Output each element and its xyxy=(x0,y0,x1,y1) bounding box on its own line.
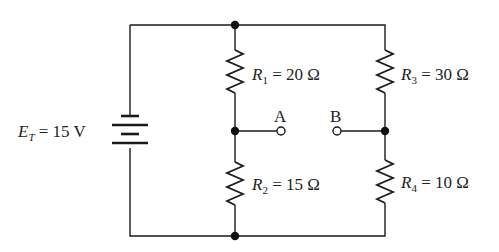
resistor-r2-icon xyxy=(227,162,243,205)
junction-bottom-node xyxy=(231,232,239,240)
terminal-b-label: B xyxy=(330,107,341,126)
bridge-circuit-diagram: A B ET = 15 V R1 = 20 Ω R2 = 15 Ω R3 = 3… xyxy=(0,0,499,252)
terminal-a xyxy=(277,127,285,135)
resistor-r4-icon xyxy=(377,160,393,203)
terminal-b xyxy=(333,127,341,135)
terminal-a-label: A xyxy=(274,107,287,126)
source-equals: = xyxy=(35,122,53,141)
resistor-r3-label: R3 = 30 Ω xyxy=(400,65,469,86)
resistor-r1-icon xyxy=(227,50,243,93)
resistor-r1-label: R1 = 20 Ω xyxy=(251,65,320,86)
source-value: 15 V xyxy=(53,122,87,141)
resistor-r3-icon xyxy=(377,50,393,93)
top-wire xyxy=(130,25,385,50)
source-symbol: E xyxy=(17,122,29,141)
junction-middle-left-node xyxy=(231,127,239,135)
resistor-r2-label: R2 = 15 Ω xyxy=(251,175,320,196)
junction-middle-right-node xyxy=(381,127,389,135)
battery-icon xyxy=(112,116,148,143)
junction-top-node xyxy=(231,21,239,29)
source-label: ET = 15 V xyxy=(17,122,87,143)
resistor-r4-label: R4 = 10 Ω xyxy=(400,173,469,194)
